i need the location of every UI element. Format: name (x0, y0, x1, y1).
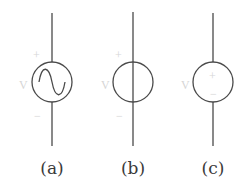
independent-source-symbol (113, 12, 153, 146)
ac-voltage-source-symbol (32, 13, 72, 146)
plus-label-c: + (209, 70, 216, 82)
caption-b: (b) (113, 158, 153, 178)
caption-c: (c) (193, 158, 233, 178)
voltage-label-a: V (19, 79, 28, 91)
plus-label-a: + (33, 49, 40, 61)
voltage-label-b: V (101, 79, 110, 91)
voltage-label-c: V (181, 79, 190, 91)
minus-label-a: − (34, 110, 41, 122)
sine-wave-icon (39, 69, 65, 95)
minus-label-c: − (210, 88, 217, 100)
minus-label-b: − (116, 110, 123, 122)
plus-label-b: + (115, 49, 122, 61)
caption-a: (a) (32, 158, 72, 178)
diagram-canvas: + V − + V − + V − (a) (b) (c) (0, 0, 250, 189)
